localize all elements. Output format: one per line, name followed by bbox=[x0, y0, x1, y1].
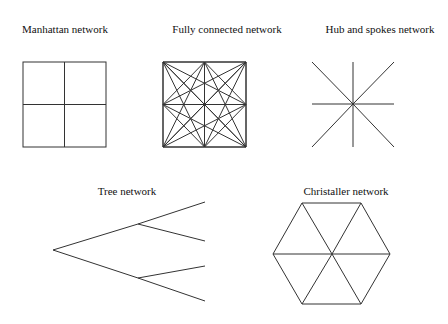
christaller-network-graphic bbox=[273, 203, 390, 304]
manhattan-network-graphic bbox=[23, 62, 106, 147]
hub-and-spokes-network-label: Hub and spokes network bbox=[325, 24, 434, 35]
manhattan-network-label: Manhattan network bbox=[22, 24, 108, 35]
tree-network-label: Tree network bbox=[98, 186, 157, 197]
christaller-network-label: Christaller network bbox=[303, 186, 388, 197]
fully-connected-network-graphic bbox=[163, 62, 246, 147]
hub-and-spokes-network-graphic bbox=[312, 62, 394, 147]
network-diagrams-canvas bbox=[0, 0, 448, 324]
tree-network-graphic bbox=[53, 202, 205, 301]
fully-connected-network-label: Fully connected network bbox=[172, 24, 281, 35]
